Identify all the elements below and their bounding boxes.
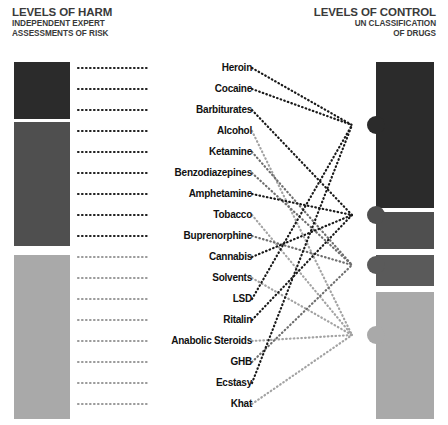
drug-label-anabolic-steroids: Anabolic Steroids [171,336,252,346]
control-block-notch [367,326,385,344]
control-block-not-subject [376,292,434,419]
harm-block-score-mid [14,122,70,246]
drug-label-heroin: Heroin [222,63,252,73]
harm-block-score-low [14,255,70,419]
control-block-notch [367,116,385,134]
drug-label-khat: Khat [231,399,252,409]
harm-block-score-high [14,62,70,119]
drug-label-cocaine: Cocaine [215,84,252,94]
control-block-moderate-risk [376,212,434,249]
control-block-low-risk [376,255,434,286]
drug-label-ecstasy: Ecstasy [216,378,252,388]
control-block-notch [367,206,385,224]
drug-label-tobacco: Tobacco [213,210,252,220]
drug-label-alcohol: Alcohol [217,126,252,136]
drug-label-benzodiazepines: Benzodiazepines [175,168,252,178]
control-block-notch [367,256,385,274]
drug-label-solvents: Solvents [212,273,252,283]
drug-label-ketamine: Ketamine [209,147,252,157]
drug-label-cannabis: Cannabis [209,252,252,262]
drug-label-amphetamine: Amphetamine [189,189,252,199]
drug-label-lsd: LSD [233,294,252,304]
drug-label-buprenorphine: Buprenorphine [184,231,252,241]
control-block-most-dangerous [376,62,434,208]
drug-label-barbiturates: Barbiturates [196,105,252,115]
drug-label-ghb: GHB [231,357,252,367]
drug-label-ritalin: Ritalin [223,315,252,325]
